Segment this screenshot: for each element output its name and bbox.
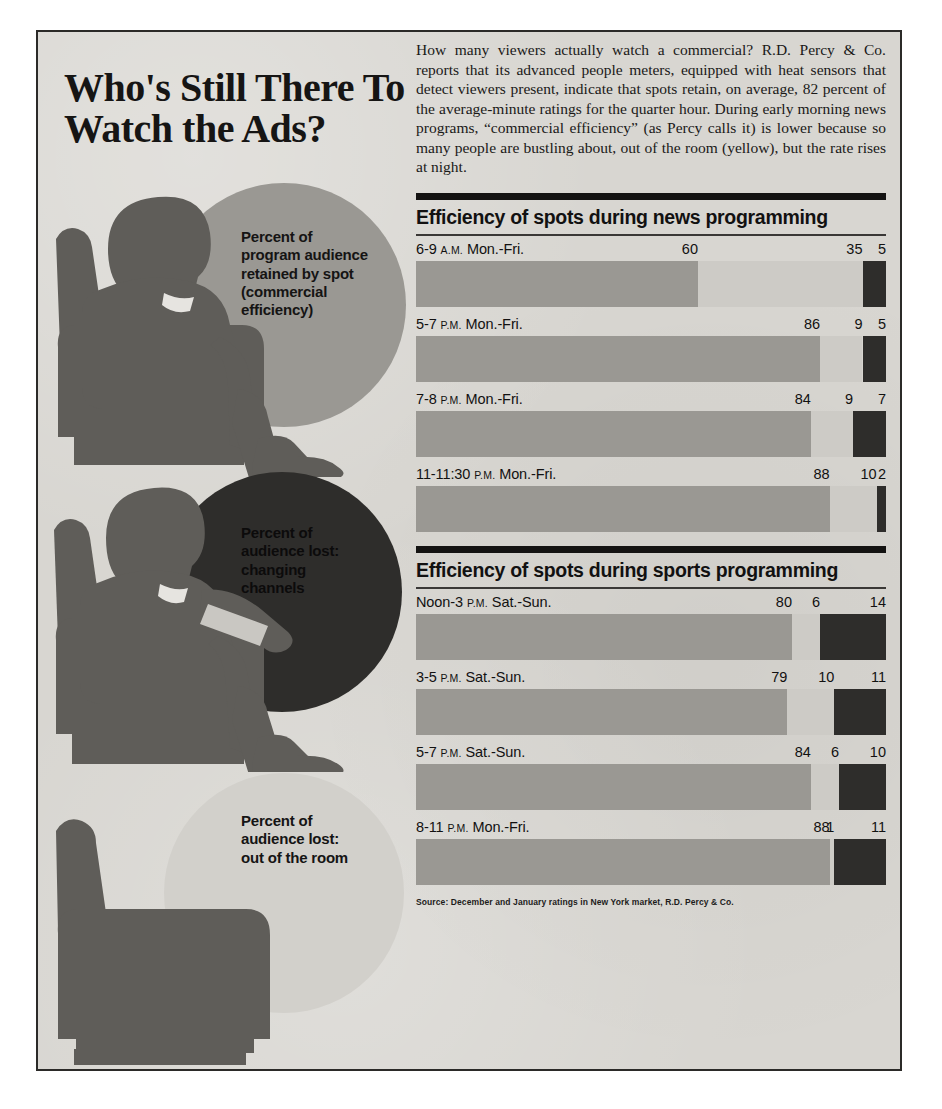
bar-segment-channel [853, 411, 886, 457]
bar-segment-room [811, 764, 839, 810]
value-out-of-room: 6 [831, 744, 839, 760]
bar-row-label: Noon-3 P.M. Sat.-Sun. [416, 594, 551, 610]
bar-row-header: 7-8 P.M. Mon.-Fri.8497 [416, 390, 886, 411]
bar-row: 3-5 P.M. Sat.-Sun.791011 [416, 668, 886, 735]
value-retained: 84 [795, 391, 811, 407]
value-changing-channels: 10 [870, 744, 886, 760]
bar-row: 5-7 P.M. Sat.-Sun.84610 [416, 743, 886, 810]
legend-label-changing-channels: Percent of audience lost: changing chann… [241, 524, 339, 597]
bar-segment-room [787, 689, 834, 735]
bar-segment-room [698, 261, 863, 307]
value-retained: 60 [682, 241, 698, 257]
chart-section: Efficiency of spots during sports progra… [416, 546, 886, 885]
bar-track [416, 614, 886, 660]
bar-row-label-smallcaps: P.M. [441, 394, 462, 406]
value-retained: 79 [771, 669, 787, 685]
value-out-of-room: 9 [854, 316, 862, 332]
chart-section: Efficiency of spots during news programm… [416, 193, 886, 532]
bar-segment-retained [416, 486, 830, 532]
value-changing-channels: 7 [878, 391, 886, 407]
bar-row-label: 8-11 P.M. Mon.-Fri. [416, 819, 530, 835]
bar-segment-retained [416, 336, 820, 382]
bar-track [416, 261, 886, 307]
bar-row-label-smallcaps: A.M. [441, 244, 463, 256]
illustration-seated-man-with-remote [52, 472, 442, 772]
section-rule-thick [416, 546, 886, 553]
value-retained: 84 [795, 744, 811, 760]
bar-row: 5-7 P.M. Mon.-Fri.8695 [416, 315, 886, 382]
bar-row-label-smallcaps: P.M. [467, 597, 488, 609]
value-changing-channels: 11 [871, 669, 886, 685]
source-note: Source: December and January ratings in … [416, 897, 886, 907]
value-changing-channels: 14 [870, 594, 886, 610]
bar-row-header: 5-7 P.M. Mon.-Fri.8695 [416, 315, 886, 336]
bar-segment-channel [834, 689, 886, 735]
intro-paragraph: How many viewers actually watch a commer… [416, 40, 886, 177]
illustration-empty-armchair [52, 747, 442, 1067]
bar-row-label: 11-11:30 P.M. Mon.-Fri. [416, 466, 556, 482]
section-rule-thin [416, 587, 886, 589]
section-title: Efficiency of spots during sports progra… [416, 559, 886, 582]
bar-row-header: 8-11 P.M. Mon.-Fri.88111 [416, 818, 886, 839]
bar-row-header: Noon-3 P.M. Sat.-Sun.80614 [416, 593, 886, 614]
bar-track [416, 411, 886, 457]
value-out-of-room: 1 [826, 819, 834, 835]
bar-row-label-smallcaps: P.M. [441, 747, 462, 759]
bar-row-label: 5-7 P.M. Sat.-Sun. [416, 744, 525, 760]
value-changing-channels: 5 [878, 241, 886, 257]
value-retained: 80 [776, 594, 792, 610]
bar-segment-channel [820, 614, 886, 660]
bar-segment-channel [834, 839, 886, 885]
chart-sections: Efficiency of spots during news programm… [416, 193, 886, 885]
bar-segment-channel [877, 486, 886, 532]
bar-row: Noon-3 P.M. Sat.-Sun.80614 [416, 593, 886, 660]
bar-row: 6-9 A.M. Mon.-Fri.60355 [416, 240, 886, 307]
value-changing-channels: 11 [871, 819, 886, 835]
bar-row-header: 6-9 A.M. Mon.-Fri.60355 [416, 240, 886, 261]
bar-row: 11-11:30 P.M. Mon.-Fri.88102 [416, 465, 886, 532]
value-changing-channels: 2 [878, 466, 886, 482]
legend-label-retained: Percent of program audience retained by … [241, 228, 368, 319]
bar-row-label-smallcaps: P.M. [474, 469, 495, 481]
bar-segment-channel [863, 336, 887, 382]
chart-column: How many viewers actually watch a commer… [416, 40, 886, 907]
bar-row-label: 3-5 P.M. Sat.-Sun. [416, 669, 525, 685]
bar-segment-retained [416, 764, 811, 810]
bar-row: 7-8 P.M. Mon.-Fri.8497 [416, 390, 886, 457]
illustration-seated-man-watching [52, 177, 442, 477]
bar-segment-retained [416, 411, 811, 457]
bar-row-label-smallcaps: P.M. [447, 822, 468, 834]
bar-segment-room [830, 486, 877, 532]
bar-segment-channel [863, 261, 887, 307]
bar-segment-room [820, 336, 862, 382]
bar-row-label: 7-8 P.M. Mon.-Fri. [416, 391, 523, 407]
bar-segment-retained [416, 614, 792, 660]
page-title: Who's Still There To Watch the Ads? [64, 67, 414, 150]
bar-row-header: 11-11:30 P.M. Mon.-Fri.88102 [416, 465, 886, 486]
value-changing-channels: 5 [878, 316, 886, 332]
value-out-of-room: 10 [818, 669, 834, 685]
value-out-of-room: 35 [846, 241, 862, 257]
bar-segment-room [792, 614, 820, 660]
bar-segment-retained [416, 839, 830, 885]
bar-row-header: 5-7 P.M. Sat.-Sun.84610 [416, 743, 886, 764]
bar-row-label: 6-9 A.M. Mon.-Fri. [416, 241, 524, 257]
section-title: Efficiency of spots during news programm… [416, 206, 886, 229]
bar-track [416, 764, 886, 810]
section-rule-thin [416, 234, 886, 236]
bar-segment-room [811, 411, 853, 457]
value-out-of-room: 9 [845, 391, 853, 407]
bar-row-label-smallcaps: P.M. [441, 672, 462, 684]
bar-segment-retained [416, 261, 698, 307]
value-out-of-room: 10 [860, 466, 876, 482]
bar-row-label: 5-7 P.M. Mon.-Fri. [416, 316, 523, 332]
bar-segment-retained [416, 689, 787, 735]
section-rule-thick [416, 193, 886, 200]
bar-track [416, 839, 886, 885]
value-out-of-room: 6 [812, 594, 820, 610]
legend-label-out-of-room: Percent of audience lost: out of the roo… [241, 812, 348, 867]
value-retained: 88 [813, 466, 829, 482]
bar-row-label-smallcaps: P.M. [441, 319, 462, 331]
value-retained: 86 [804, 316, 820, 332]
bar-track [416, 689, 886, 735]
